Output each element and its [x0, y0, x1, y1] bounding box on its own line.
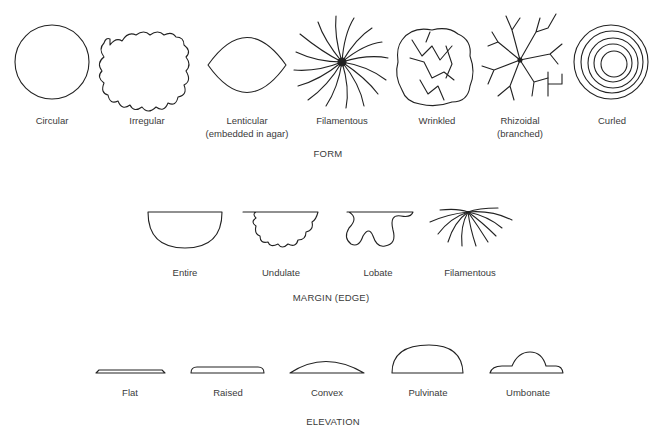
- irregular-form-icon: [99, 32, 189, 111]
- wrinkled-form-icon: [397, 29, 473, 106]
- margin-label-entire: Entire: [173, 266, 198, 279]
- margin-label-lobate: Lobate: [363, 266, 392, 279]
- margin-section-title: MARGIN (EDGE): [293, 292, 370, 303]
- elevation-label-convex: Convex: [311, 386, 343, 399]
- umbonate-elevation-icon: [490, 352, 563, 373]
- lenticular-form-icon: [208, 38, 286, 93]
- form-label-irregular: Irregular: [129, 114, 164, 127]
- undulate-margin-icon: [243, 212, 318, 247]
- curled-form-icon: [574, 25, 648, 99]
- pulvinate-elevation-icon: [392, 345, 463, 373]
- filamentous-margin-icon: [430, 208, 512, 246]
- elevation-label-raised: Raised: [213, 386, 243, 399]
- lobate-margin-icon: [346, 212, 413, 246]
- elevation-label-flat: Flat: [122, 386, 138, 399]
- form-sublabel-lenticular: (embedded in agar): [206, 127, 289, 140]
- form-label-wrinkled: Wrinkled: [419, 114, 456, 127]
- form-label-filamentous: Filamentous: [316, 114, 368, 127]
- elevation-section-title: ELEVATION: [306, 416, 360, 427]
- filamentous-form-icon: [294, 16, 388, 108]
- rhizoidal-form-icon: [482, 14, 562, 100]
- form-label-curled: Curled: [598, 114, 626, 127]
- margin-label-filamentous: Filamentous: [444, 266, 496, 279]
- form-label-circular: Circular: [36, 114, 69, 127]
- convex-elevation-icon: [290, 362, 364, 374]
- elevation-label-umbonate: Umbonate: [506, 386, 550, 399]
- form-section-title: FORM: [314, 148, 343, 159]
- form-label-lenticular: Lenticular: [226, 114, 267, 127]
- elevation-label-pulvinate: Pulvinate: [408, 386, 447, 399]
- form-sublabel-rhizoidal: (branched): [497, 127, 543, 140]
- margin-label-undulate: Undulate: [262, 266, 300, 279]
- entire-margin-icon: [148, 212, 222, 248]
- raised-elevation-icon: [191, 367, 264, 373]
- flat-elevation-icon: [96, 370, 165, 373]
- colony-morphology-diagram: [0, 0, 661, 431]
- circular-form-icon: [15, 25, 89, 99]
- form-label-rhizoidal: Rhizoidal: [500, 114, 539, 127]
